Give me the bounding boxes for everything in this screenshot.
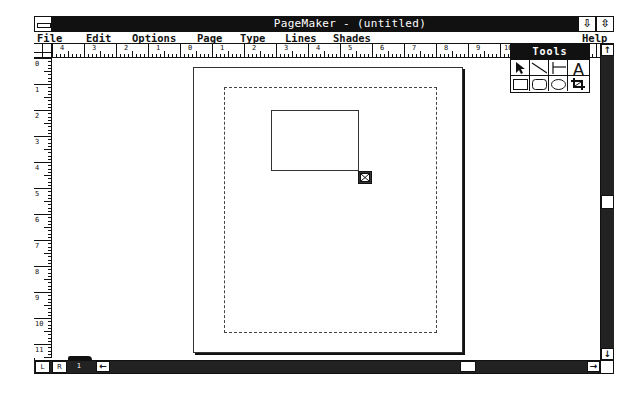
ruler-tick (48, 104, 51, 105)
tool-rectangle[interactable] (511, 75, 530, 91)
rectangle-object[interactable] (271, 110, 359, 171)
ruler-zero-point[interactable] (34, 44, 52, 58)
ruler-tick (264, 54, 265, 57)
page-1-icon[interactable]: 1 (72, 361, 86, 372)
vertical-scroll-thumb[interactable] (601, 195, 614, 209)
ruler-tick (84, 44, 85, 57)
ruler-tick (48, 61, 51, 62)
scroll-up-button[interactable]: ↑ (601, 44, 614, 56)
system-menu-button[interactable] (34, 16, 52, 32)
ruler-tick (132, 51, 133, 57)
ruler-label: 1 (156, 44, 160, 52)
menu-type[interactable]: Type (240, 32, 265, 44)
ruler-tick (488, 54, 489, 57)
ruler-tick (392, 54, 393, 57)
ruler-tick (48, 107, 51, 108)
ruler-tick (44, 123, 51, 124)
ruler-tick (48, 204, 51, 205)
tool-pointer[interactable] (511, 59, 530, 75)
ruler-tick (44, 279, 51, 280)
ruler-tick (34, 188, 51, 189)
ruler-tick (436, 44, 437, 57)
ruler-tick (224, 54, 225, 57)
system-menu-icon (37, 23, 51, 28)
ruler-tick (496, 54, 497, 57)
ruler-label: 6 (35, 216, 39, 224)
ruler-tick (324, 51, 325, 57)
ruler-tick (328, 54, 329, 57)
ruler-tick (34, 84, 51, 85)
ruler-tick (48, 260, 51, 261)
menu-file[interactable]: File (37, 32, 62, 44)
tool-oval[interactable] (549, 75, 568, 91)
tool-perpendicular-line[interactable] (549, 59, 568, 75)
ruler-tick (48, 130, 51, 131)
ruler-label: 0 (188, 44, 192, 52)
ruler-tick (336, 54, 337, 57)
ruler-tick (48, 312, 51, 313)
ruler-tick (176, 54, 177, 57)
ruler-tick (56, 54, 57, 57)
ruler-tick (384, 54, 385, 57)
ruler-tick (364, 54, 365, 57)
ruler-tick (48, 247, 51, 248)
ruler-tick (34, 214, 51, 215)
menu-options[interactable]: Options (132, 32, 176, 44)
ruler-tick (48, 289, 51, 290)
minimize-button[interactable]: ⇩ (578, 16, 596, 32)
right-master-label: R (57, 363, 62, 371)
ruler-tick (124, 54, 125, 57)
tool-crop[interactable] (568, 75, 589, 91)
ruler-label: 9 (476, 44, 480, 52)
ruler-tick (44, 305, 51, 306)
ruler-tick (64, 54, 65, 57)
ruler-label: 5 (348, 44, 352, 52)
ruler-tick (144, 54, 145, 57)
ruler-tick (184, 54, 185, 57)
menu-page[interactable]: Page (197, 32, 222, 44)
ruler-label: 7 (412, 44, 416, 52)
toolbox-title[interactable]: Tools (511, 45, 589, 59)
ruler-tick (352, 54, 353, 57)
ruler-tick (448, 54, 449, 57)
left-master-page-icon[interactable]: L (35, 361, 50, 373)
scroll-right-button[interactable]: → (587, 361, 600, 372)
ruler-tick (48, 221, 51, 222)
menu-page-label: age (203, 32, 222, 44)
ruler-tick (48, 81, 51, 82)
menu-shades[interactable]: Shades (333, 32, 371, 44)
horizontal-scroll-thumb[interactable] (460, 361, 476, 372)
tool-text[interactable]: A (568, 59, 589, 75)
scroll-down-button[interactable]: ↓ (601, 348, 614, 360)
menu-help[interactable]: Help (582, 32, 607, 44)
vertical-ruler[interactable]: 0 1 2 3 4 5 6 7 8 9 10 11 (34, 58, 52, 358)
ruler-tick (48, 282, 51, 283)
ruler-tick (34, 58, 51, 59)
ruler-tick (136, 54, 137, 57)
svg-text:A: A (573, 61, 584, 76)
toolbox-palette: Tools A (510, 44, 590, 93)
menu-lines[interactable]: Lines (285, 32, 317, 44)
ruler-tick (48, 68, 51, 69)
ruler-tick (252, 54, 253, 57)
tool-diagonal-line[interactable] (530, 59, 549, 75)
ruler-tick (404, 44, 405, 57)
ruler-tick (368, 54, 369, 57)
ruler-tick (48, 146, 51, 147)
right-master-page-icon[interactable]: R (52, 361, 67, 373)
ruler-tick (48, 78, 51, 79)
menu-edit[interactable]: Edit (86, 32, 111, 44)
maximize-button[interactable]: ⇳ (596, 16, 614, 32)
ruler-tick (48, 178, 51, 179)
arrow-down-icon: ⇩ (582, 17, 591, 30)
rectangle-icon (512, 77, 528, 91)
tool-rounded-rectangle[interactable] (530, 75, 549, 91)
ruler-tick (108, 54, 109, 57)
ruler-tick (52, 44, 53, 57)
ruler-tick (244, 44, 245, 57)
horizontal-scrollbar[interactable] (34, 360, 600, 373)
resize-handle[interactable] (358, 171, 372, 184)
scroll-left-button[interactable]: ← (96, 361, 110, 372)
ruler-tick (44, 331, 51, 332)
size-box (600, 360, 614, 374)
